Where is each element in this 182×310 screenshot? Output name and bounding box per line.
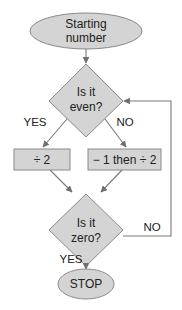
flowchart: Starting number Is it even? YES NO ÷ 2 −…: [0, 0, 182, 310]
start-label-line1: Starting: [65, 17, 106, 31]
start-node: Starting number: [30, 13, 142, 49]
decision-even-node: Is it even?: [49, 64, 123, 137]
decision-zero-line2: zero?: [71, 231, 101, 245]
stop-label: STOP: [70, 277, 102, 291]
process-minus-divide-label: − 1 then ÷ 2: [93, 153, 157, 167]
arrow-even-yes: [43, 119, 67, 147]
start-label-line2: number: [66, 31, 107, 45]
process-divide-node: ÷ 2: [14, 149, 70, 170]
even-no-label: NO: [116, 116, 133, 128]
even-yes-label: YES: [23, 116, 46, 128]
process-minus-divide-node: − 1 then ÷ 2: [88, 149, 161, 170]
stop-node: STOP: [58, 269, 114, 299]
arrow-divide-to-zero: [50, 170, 72, 192]
arrow-minus-divide-to-zero: [101, 170, 122, 192]
decision-zero-line1: Is it: [77, 216, 96, 230]
decision-even-line1: Is it: [77, 85, 96, 99]
decision-even-line2: even?: [70, 100, 103, 114]
process-divide-label: ÷ 2: [34, 153, 51, 167]
zero-yes-label: YES: [59, 253, 82, 265]
zero-no-label: NO: [143, 221, 160, 233]
